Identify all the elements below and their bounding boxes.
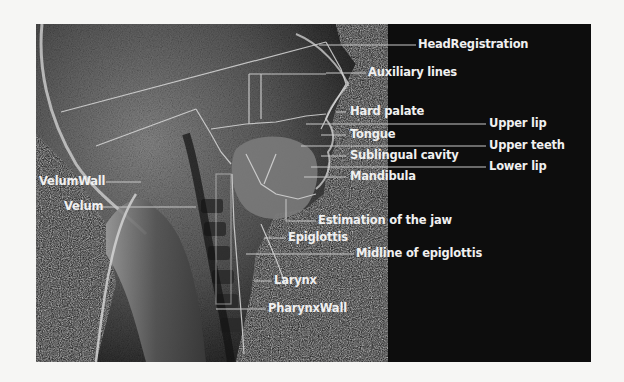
label-midline-of-epiglottis: Midline of epiglottis (356, 248, 482, 260)
label-estimation-of-the-jaw: Estimation of the jaw (318, 215, 452, 227)
label-mandibula: Mandibula (350, 171, 416, 183)
label-hard-palate: Hard palate (350, 106, 424, 118)
label-epiglottis: Epiglottis (288, 232, 348, 244)
label-tongue: Tongue (350, 129, 395, 141)
label-lower-lip: Lower lip (489, 161, 547, 173)
label-sublingual-cavity: Sublingual cavity (350, 150, 459, 162)
label-larynx: Larynx (274, 275, 317, 287)
label-head-registration: HeadRegistration (418, 39, 528, 51)
label-upper-teeth: Upper teeth (489, 140, 565, 152)
label-velum-wall: VelumWall (39, 176, 105, 188)
mri-figure-panel: HeadRegistration Auxiliary lines Hard pa… (36, 24, 591, 362)
label-velum: Velum (64, 201, 103, 213)
label-upper-lip: Upper lip (489, 118, 547, 130)
label-pharynx-wall: PharynxWall (268, 303, 347, 315)
label-auxiliary-lines: Auxiliary lines (368, 67, 457, 79)
